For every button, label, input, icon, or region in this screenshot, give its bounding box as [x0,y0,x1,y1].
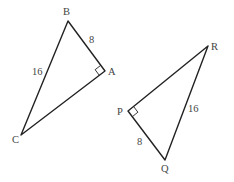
triangle-abc: B A C 8 16 [12,6,116,145]
vertex-label-q: Q [161,163,169,174]
vertex-label-a: A [108,66,116,77]
side-label-qr: 16 [188,103,199,114]
triangle-pqr: R P Q 8 16 [117,41,218,174]
vertex-label-p: P [117,106,123,117]
side-label-pq: 8 [137,136,142,147]
side-label-bc: 16 [32,66,43,77]
diagram-canvas: B A C 8 16 R P Q 8 16 [0,0,234,182]
right-angle-mark-p [132,107,138,117]
side-label-ab: 8 [89,34,94,45]
vertex-label-c: C [12,134,19,145]
vertex-label-r: R [211,41,218,52]
vertex-label-b: B [63,6,70,17]
right-angle-mark-a [95,65,101,75]
